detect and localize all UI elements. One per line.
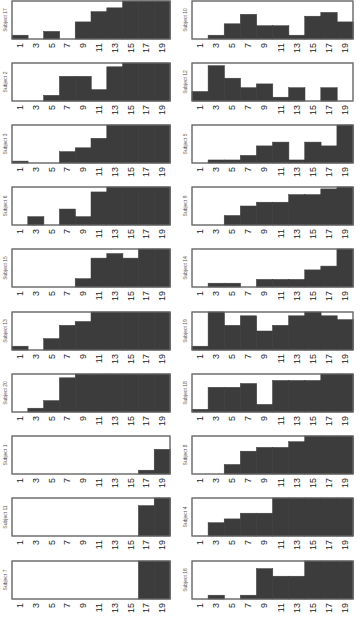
x-tick-label: 17 — [324, 229, 334, 239]
histogram-bar — [240, 206, 256, 225]
histogram-bar — [273, 380, 289, 412]
x-tick-label: 5 — [227, 43, 237, 48]
x-tick-label: 5 — [47, 540, 57, 545]
histogram-bar — [123, 1, 139, 39]
histogram-bar — [123, 374, 139, 412]
x-tick-label: 3 — [211, 354, 221, 359]
histogram-bar — [337, 320, 353, 350]
histogram-bar — [123, 63, 139, 101]
x-tick-label: 15 — [126, 416, 136, 426]
histogram-bar — [138, 249, 154, 287]
histogram-bar — [289, 498, 305, 536]
histogram-bar — [240, 88, 256, 101]
x-tick-label: 19 — [340, 105, 350, 115]
histogram-bar — [123, 258, 139, 287]
x-tick-label: 13 — [110, 229, 120, 239]
panel-label: Subject 12 — [182, 70, 188, 94]
histogram-bar — [289, 279, 305, 287]
x-tick-label: 7 — [243, 416, 253, 421]
panel-label: Subject 16 — [182, 568, 188, 592]
histogram-bar — [44, 339, 60, 350]
x-tick-label: 5 — [47, 105, 57, 110]
x-tick-label: 11 — [276, 229, 286, 238]
x-tick-label: 5 — [47, 478, 57, 483]
panel-label: Subject 8 — [182, 444, 188, 465]
x-tick-label: 13 — [292, 43, 302, 53]
histogram-bar — [208, 312, 224, 350]
x-tick-label: 19 — [157, 478, 167, 488]
histogram-bar — [138, 63, 154, 101]
x-tick-label: 17 — [141, 105, 151, 115]
panel-label: Subject 5 — [182, 133, 188, 154]
histogram-bar — [321, 12, 337, 39]
x-tick-label: 1 — [195, 416, 205, 421]
histogram-bar — [208, 523, 224, 536]
panel-subject-6: Subject 6135791113151719 — [2, 187, 170, 239]
histogram-bar — [138, 470, 154, 474]
x-tick-label: 5 — [47, 416, 57, 421]
histogram-bar — [75, 322, 91, 351]
histogram-bar — [321, 146, 337, 163]
histogram-bar — [240, 513, 256, 536]
panel-label: Subject 2 — [2, 71, 8, 92]
histogram-bar — [154, 561, 170, 599]
histogram-bar — [240, 384, 256, 413]
x-tick-label: 5 — [47, 43, 57, 48]
histogram-bar — [44, 95, 60, 101]
panel-subject-11: Subject 11135791113151719 — [2, 498, 170, 550]
x-tick-label: 3 — [211, 540, 221, 545]
x-tick-label: 9 — [259, 540, 269, 545]
panel-label: Subject 10 — [182, 8, 188, 32]
x-tick-label: 15 — [126, 354, 136, 364]
x-tick-label: 19 — [340, 354, 350, 364]
x-tick-label: 11 — [94, 354, 104, 363]
x-tick-label: 11 — [94, 291, 104, 300]
x-tick-label: 19 — [157, 540, 167, 550]
histogram-bar — [224, 465, 240, 475]
histogram-bar — [75, 76, 91, 101]
histogram-bar — [289, 576, 305, 599]
x-tick-label: 3 — [31, 416, 41, 421]
x-tick-label: 11 — [94, 603, 104, 612]
x-tick-label: 15 — [126, 291, 136, 301]
x-tick-label: 5 — [47, 167, 57, 172]
x-tick-label: 17 — [324, 540, 334, 550]
x-tick-label: 15 — [308, 167, 318, 177]
histogram-bar — [273, 498, 289, 536]
x-tick-label: 9 — [259, 105, 269, 110]
panel-subject-3: Subject 3135791113151719 — [2, 125, 170, 177]
panel-subject-4: Subject 4135791113151719 — [182, 498, 353, 550]
x-tick-label: 11 — [276, 416, 286, 425]
x-tick-label: 1 — [195, 43, 205, 48]
x-tick-label: 9 — [78, 291, 88, 296]
x-tick-label: 7 — [243, 291, 253, 296]
histogram-bar — [75, 217, 91, 225]
x-tick-label: 5 — [227, 416, 237, 421]
histogram-bar — [305, 498, 321, 536]
x-tick-label: 5 — [227, 540, 237, 545]
histogram-bar — [305, 380, 321, 412]
histogram-bar — [107, 312, 123, 350]
x-tick-label: 3 — [31, 354, 41, 359]
x-tick-label: 5 — [227, 354, 237, 359]
x-tick-label: 9 — [78, 416, 88, 421]
x-tick-label: 13 — [292, 229, 302, 239]
panel-label: Subject 17 — [2, 8, 8, 32]
panel-subject-13: Subject 13135791113151719 — [2, 312, 170, 364]
panel-label: Subject 1 — [2, 444, 8, 465]
histogram-bar — [256, 447, 272, 474]
histogram-bar — [107, 8, 123, 39]
x-tick-label: 9 — [78, 167, 88, 172]
histogram-bar — [289, 88, 305, 101]
histogram-bar — [138, 506, 154, 536]
histogram-bar — [273, 325, 289, 350]
x-tick-label: 17 — [141, 167, 151, 177]
histogram-bar — [154, 1, 170, 39]
x-tick-label: 19 — [157, 416, 167, 426]
histogram-bar — [256, 84, 272, 101]
x-tick-label: 9 — [78, 540, 88, 545]
panel-label: Subject 13 — [2, 319, 8, 343]
histogram-bar — [192, 92, 208, 102]
x-tick-label: 1 — [15, 478, 25, 483]
panel-label: Subject 3 — [2, 133, 8, 154]
